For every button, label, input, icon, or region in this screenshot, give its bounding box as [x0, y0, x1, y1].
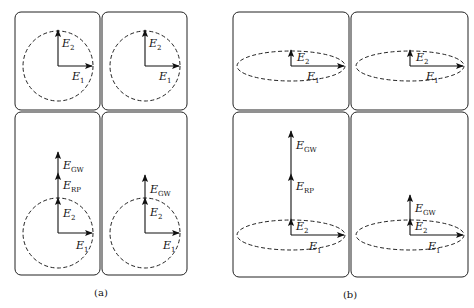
e2-label: E2	[295, 220, 309, 235]
e2-label: E2	[414, 220, 428, 235]
panel-b: E2 E1 E2 E1 E2 ERP EGW E1	[233, 12, 468, 300]
egw-label: EGW	[62, 159, 85, 174]
e2-label: E2	[148, 37, 162, 52]
e1-label: E1	[71, 70, 85, 85]
e2-label: E2	[296, 51, 310, 66]
panel-a: E2 E1 E2 E1 E2 ERP EGW E1	[15, 12, 187, 298]
e2-label: E2	[149, 206, 163, 221]
cell-b-tl-content: E2 E1	[237, 50, 345, 85]
cell-a-tl-content: E2 E1	[23, 30, 93, 101]
cell-b-br-content: E2 EGW E1	[356, 195, 464, 255]
e2-label: E2	[61, 37, 75, 52]
e2-label: E2	[415, 51, 429, 66]
e1-label: E1	[158, 70, 172, 85]
egw-label: EGW	[414, 202, 437, 217]
e1-label: E1	[306, 70, 320, 85]
e1-label: E1	[425, 70, 439, 85]
caption-b: (b)	[343, 289, 357, 300]
cell-b-tr-content: E2 E1	[356, 50, 464, 85]
erp-label: ERP	[295, 180, 314, 195]
erp-label: ERP	[62, 179, 81, 194]
egw-label: EGW	[149, 183, 172, 198]
cell-a-bl-content: E2 ERP EGW E1	[23, 152, 93, 268]
e1-label: E1	[427, 240, 441, 255]
field-vector-diagram: E2 E1 E2 E1 E2 ERP EGW E1	[0, 0, 474, 308]
e1-label: E1	[308, 240, 322, 255]
cell-a-br-content: E2 EGW E1	[110, 175, 180, 268]
e1-label: E1	[162, 239, 176, 254]
cell-a-tr-content: E2 E1	[110, 30, 180, 101]
egw-label: EGW	[295, 139, 318, 154]
caption-a: (a)	[94, 287, 108, 298]
e1-label: E1	[75, 239, 89, 254]
e2-label: E2	[62, 207, 76, 222]
cell-b-bottom-right	[351, 112, 468, 277]
cell-b-bl-content: E2 ERP EGW E1	[237, 131, 345, 255]
